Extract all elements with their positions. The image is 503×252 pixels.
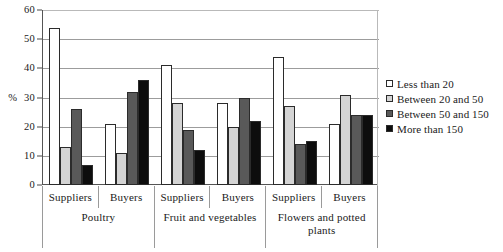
bar: [71, 109, 82, 185]
bar-chart: 0102030%405060 SuppliersBuyersSuppliersB…: [0, 0, 503, 252]
y-tick-label: 20: [24, 122, 35, 132]
x-axis-subgroup-label: Buyers: [99, 186, 155, 208]
y-tick-label: 50: [24, 34, 35, 44]
bar: [284, 106, 295, 185]
bar: [138, 80, 149, 185]
bar-subgroup: [211, 10, 267, 185]
bar: [306, 141, 317, 185]
bar: [351, 115, 362, 185]
bar: [161, 65, 172, 185]
bar-groups: [43, 10, 379, 185]
bar: [116, 153, 127, 185]
bar: [362, 115, 373, 185]
x-axis-subgroup-label: Buyers: [210, 186, 266, 208]
x-axis-subgroup-label: Suppliers: [155, 186, 211, 208]
bar-subgroup: [323, 10, 379, 185]
x-axis-subgroup-label: Buyers: [322, 186, 377, 208]
x-axis-subgroup-label: Suppliers: [266, 186, 322, 208]
bar-subgroup: [43, 10, 99, 185]
bar: [183, 130, 194, 185]
bar-supergroup: [267, 10, 379, 185]
bar-supergroup: [43, 10, 155, 185]
bar: [273, 57, 284, 185]
y-tick-label: 10: [24, 151, 35, 161]
y-tick-label: 0: [30, 180, 35, 190]
x-axis-group-label: Flowers and potted plants: [266, 208, 377, 248]
legend-swatch-icon: [386, 80, 393, 87]
bar: [82, 165, 93, 185]
x-axis-subgroup-labels: SuppliersBuyersSuppliersBuyersSuppliersB…: [42, 186, 378, 208]
legend-item: Less than 20: [386, 76, 501, 91]
legend-swatch-icon: [386, 95, 393, 102]
legend-swatch-icon: [386, 125, 393, 132]
legend-item: Between 20 and 50: [386, 91, 501, 106]
legend-item-label: Less than 20: [397, 78, 454, 90]
bar: [172, 103, 183, 185]
bar: [60, 147, 71, 185]
legend-item: Between 50 and 150: [386, 106, 501, 121]
bar-subgroup: [267, 10, 323, 185]
y-tick-label: 40: [24, 63, 35, 73]
y-tick-label: 30: [24, 93, 35, 103]
bar: [217, 103, 228, 185]
x-axis-group-labels: PoultryFruit and vegetablesFlowers and p…: [42, 208, 378, 248]
bar-subgroup: [155, 10, 211, 185]
y-axis-unit-label: %: [8, 93, 17, 103]
chart-legend: Less than 20Between 20 and 50Between 50 …: [386, 76, 501, 136]
bar: [340, 95, 351, 185]
legend-item-label: More than 150: [397, 123, 463, 135]
x-axis-group-label: Fruit and vegetables: [155, 208, 267, 248]
x-axis-subgroup-label: Suppliers: [43, 186, 99, 208]
legend-item-label: Between 50 and 150: [397, 108, 489, 120]
bar-subgroup: [99, 10, 155, 185]
bar: [49, 28, 60, 186]
plot-right-border: [377, 10, 378, 186]
bar: [250, 121, 261, 185]
bar: [127, 92, 138, 185]
x-axis-group-label: Poultry: [43, 208, 155, 248]
legend-item: More than 150: [386, 121, 501, 136]
bar: [329, 124, 340, 185]
plot-area: [42, 10, 378, 185]
bar: [105, 124, 116, 185]
legend-swatch-icon: [386, 110, 393, 117]
y-axis: 0102030%405060: [0, 10, 42, 185]
bar: [295, 144, 306, 185]
bar: [228, 127, 239, 185]
bar-supergroup: [155, 10, 267, 185]
legend-item-label: Between 20 and 50: [397, 93, 483, 105]
bar: [239, 98, 250, 186]
bar: [194, 150, 205, 185]
y-tick-label: 60: [24, 5, 35, 15]
